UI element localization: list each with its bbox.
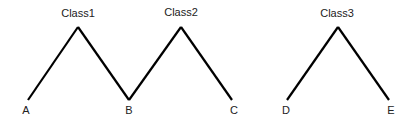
class3-label: Class3	[320, 7, 354, 19]
edge-a-class1	[28, 27, 78, 100]
class-diagram: Class1 Class2 Class3 A B C D E	[0, 0, 415, 128]
edge-class2-c	[181, 27, 232, 100]
leaf-label-d: D	[282, 104, 290, 116]
edge-class3-e	[338, 27, 389, 100]
leaf-label-c: C	[230, 104, 238, 116]
edge-d-class3	[287, 27, 338, 100]
class3-group: Class3	[287, 7, 389, 100]
edge-class1-b	[78, 27, 129, 100]
class1-group: Class1	[28, 7, 129, 100]
class2-label: Class2	[164, 6, 198, 18]
leaf-label-e: E	[387, 104, 394, 116]
class2-group: Class2	[129, 6, 232, 100]
leaf-label-b: B	[125, 104, 132, 116]
class1-label: Class1	[61, 7, 95, 19]
edge-b-class2	[129, 27, 181, 100]
leaf-label-a: A	[22, 104, 30, 116]
